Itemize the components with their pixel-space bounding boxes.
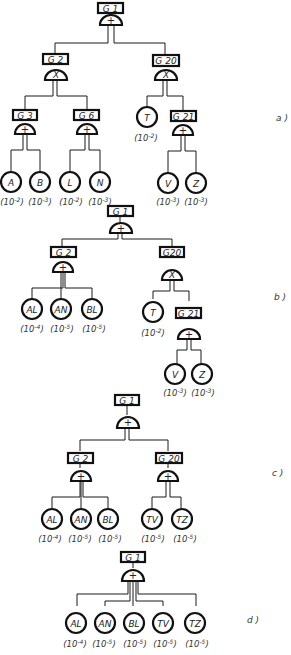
diagram-d: G 1 + AL AN BL TV TZ (10-4) (10-5) (10-5… (63, 552, 259, 649)
event-bl-circle: BL (82, 299, 102, 319)
or-gate-icon: + (100, 15, 122, 26)
svg-text:G 1: G 1 (119, 396, 135, 406)
prob-bl: (10-5) (123, 638, 146, 649)
svg-text:+: + (83, 124, 91, 135)
prob-tv: (10-5) (141, 533, 164, 544)
event-v-circle: V (158, 173, 178, 193)
svg-text:V: V (165, 179, 172, 189)
svg-text:+: + (59, 262, 67, 273)
event-al-circle: AL (42, 509, 62, 529)
svg-text:G 2: G 2 (56, 248, 72, 258)
svg-text:+: + (185, 329, 193, 340)
event-al-circle: AL (22, 299, 42, 319)
or-gate-icon: + (71, 471, 91, 482)
svg-text:A: A (7, 178, 14, 188)
svg-text:+: + (179, 125, 187, 136)
prob-v: (10-3) (163, 387, 186, 398)
gate-g3-box: G 3 (13, 110, 37, 121)
prob-v: (10-3) (156, 196, 179, 207)
or-gate-icon: + (110, 223, 132, 234)
or-gate-icon: + (122, 570, 144, 582)
prob-an: (10-5) (50, 323, 73, 334)
prob-t: (10-2) (141, 327, 164, 338)
diagram-b: G 1 + G 2 + G20 X AL AN BL (10-4) (10-5)… (20, 206, 286, 398)
or-gate-icon: + (77, 124, 97, 135)
svg-text:Z: Z (192, 179, 200, 189)
gate-g21-box: G 21 (176, 308, 201, 319)
event-z-circle: Z (186, 173, 206, 193)
prob-bl: (10-5) (98, 533, 121, 544)
svg-text:G 6: G 6 (79, 111, 95, 121)
svg-text:TV: TV (146, 515, 158, 525)
svg-text:B: B (37, 178, 43, 188)
gate-g2-box: G 2 (51, 247, 76, 258)
svg-text:+: + (129, 570, 137, 581)
svg-text:AL: AL (45, 515, 57, 525)
or-gate-icon: + (173, 125, 193, 136)
gate-g1-box: G 1 (115, 395, 139, 406)
svg-text:G 1: G 1 (125, 553, 141, 563)
panel-label-c: c ) (272, 468, 283, 478)
prob-al: (10-4) (63, 638, 86, 649)
and-gate-icon: X (45, 70, 67, 80)
svg-text:+: + (164, 471, 172, 482)
svg-text:+: + (21, 124, 29, 135)
svg-text:G20: G20 (163, 248, 182, 258)
fault-tree-figure: G 1 + G 2 X G 20 X G 3 + G 6 + T (10-2) … (0, 0, 291, 655)
svg-text:AN: AN (54, 305, 68, 315)
and-gate-icon: X (155, 70, 177, 80)
svg-text:V: V (172, 370, 179, 380)
svg-text:AL: AL (69, 619, 81, 629)
or-gate-icon: + (15, 124, 35, 135)
prob-t: (10-2) (134, 132, 157, 143)
event-bl-circle: BL (124, 613, 144, 633)
prob-al: (10-4) (38, 533, 61, 544)
svg-text:+: + (107, 15, 115, 26)
prob-z: (10-3) (184, 196, 207, 207)
prob-bl: (10-5) (82, 323, 105, 334)
prob-al: (10-4) (20, 323, 43, 334)
or-gate-icon: + (178, 329, 200, 340)
prob-tz: (10-5) (173, 533, 196, 544)
event-an-circle: AN (51, 299, 71, 319)
event-tv-circle: TV (153, 613, 173, 633)
gate-g1-box: G 1 (98, 3, 123, 14)
prob-l: (10-2) (59, 196, 82, 207)
event-t-circle: T (137, 107, 157, 127)
svg-text:G 20: G 20 (158, 454, 180, 464)
svg-text:AN: AN (98, 619, 112, 629)
svg-text:G 1: G 1 (103, 4, 119, 14)
svg-text:G 3: G 3 (17, 111, 33, 121)
svg-text:G 20: G 20 (155, 56, 177, 66)
or-gate-icon: + (158, 471, 178, 482)
event-a-circle: A (1, 172, 21, 192)
svg-text:TZ: TZ (176, 515, 188, 525)
gate-g2-box: G 2 (68, 453, 93, 464)
gate-g1-box: G 1 (108, 206, 133, 217)
svg-text:G 2: G 2 (73, 454, 89, 464)
panel-label-d: d ) (247, 615, 259, 625)
svg-text:G 1: G 1 (113, 207, 129, 217)
svg-text:L: L (67, 178, 72, 188)
panel-label-a: a ) (276, 113, 288, 123)
diagram-c: G 1 + G 2 + G 20 + AL AN BL TV TZ (10-4)… (38, 395, 283, 544)
svg-text:BL: BL (102, 515, 113, 525)
svg-text:G 21: G 21 (178, 309, 199, 319)
event-tz-circle: TZ (172, 509, 192, 529)
event-t-circle: T (143, 302, 163, 322)
gate-g20-box: G 20 (156, 453, 182, 464)
prob-an: (10-5) (92, 638, 115, 649)
panel-label-b: b ) (274, 292, 286, 302)
gate-g21-box: G 21 (171, 111, 196, 122)
event-bl-circle: BL (98, 509, 118, 529)
svg-text:+: + (77, 471, 85, 482)
svg-text:TV: TV (157, 619, 169, 629)
prob-tv: (10-5) (153, 638, 176, 649)
gate-g20-box: G20 (160, 247, 184, 258)
svg-text:AL: AL (25, 305, 37, 315)
prob-tz: (10-5) (185, 638, 208, 649)
svg-text:G 2: G 2 (48, 55, 64, 65)
event-tz-circle: TZ (185, 613, 205, 633)
prob-z: (10-3) (191, 387, 214, 398)
svg-text:BL: BL (128, 619, 139, 629)
